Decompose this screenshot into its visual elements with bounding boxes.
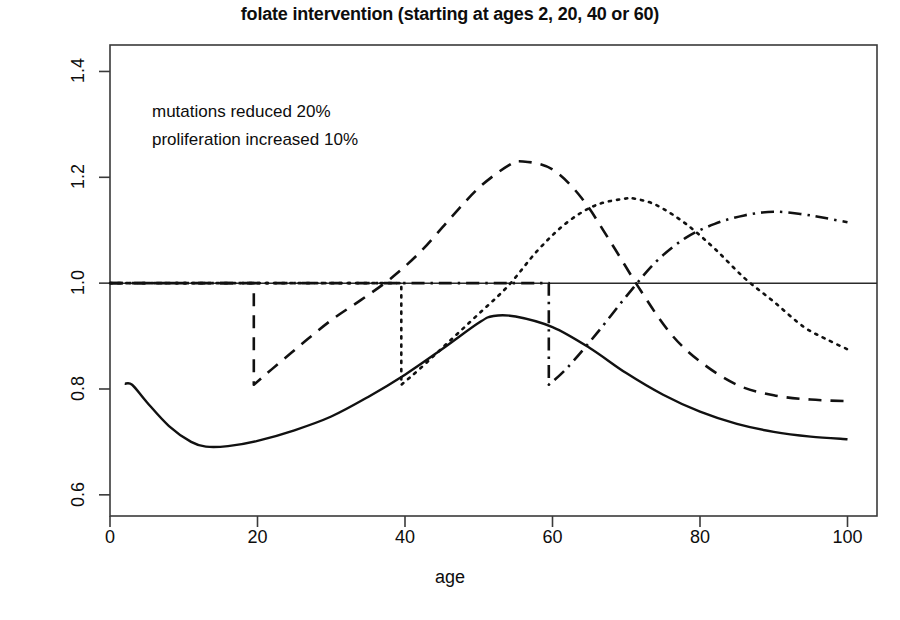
series-line-3: [110, 212, 848, 385]
plot-area: [0, 0, 900, 620]
data-series: [110, 161, 848, 447]
axes: [99, 45, 877, 527]
series-line-2: [110, 198, 848, 385]
series-line-0: [125, 315, 848, 447]
series-line-1: [110, 161, 848, 401]
figure: folate intervention (starting at ages 2,…: [0, 0, 900, 620]
